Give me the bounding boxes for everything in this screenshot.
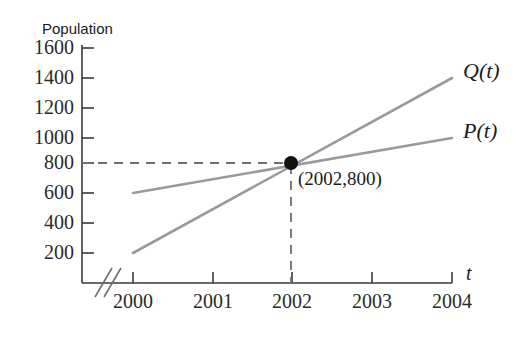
- x-tick-label-2001: 2001: [178, 290, 248, 313]
- y-tick-label-1600: 1600: [14, 36, 74, 59]
- y-axis-title: Population: [42, 20, 113, 37]
- intersection-point-label: (2002,800): [298, 168, 382, 190]
- chart-figure: Population 1600 1400 1200 1000 800 600 4…: [0, 0, 526, 341]
- x-tick-label-2000: 2000: [98, 290, 168, 313]
- x-tick-label-2003: 2003: [337, 290, 407, 313]
- y-tick-label-800: 800: [14, 151, 74, 174]
- y-axis-ticks: [82, 48, 94, 253]
- x-tick-label-2004: 2004: [417, 290, 487, 313]
- x-axis-variable-label: t: [466, 262, 472, 285]
- y-tick-label-1000: 1000: [14, 126, 74, 149]
- intersection-point-marker: [284, 156, 298, 170]
- y-tick-label-1400: 1400: [14, 66, 74, 89]
- y-tick-label-200: 200: [14, 241, 74, 264]
- x-tick-label-2002: 2002: [257, 290, 327, 313]
- y-tick-label-400: 400: [14, 211, 74, 234]
- series-label-p: P(t): [463, 118, 497, 144]
- y-tick-label-1200: 1200: [14, 96, 74, 119]
- y-tick-label-600: 600: [14, 181, 74, 204]
- series-label-q: Q(t): [463, 58, 500, 84]
- x-axis-ticks: [133, 272, 452, 283]
